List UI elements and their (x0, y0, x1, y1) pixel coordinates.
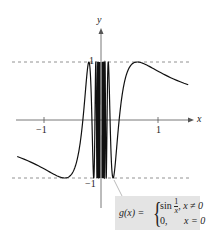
formula-sin: sin (160, 200, 172, 211)
y-axis-arrow-icon (99, 28, 104, 34)
x-axis-label: x (197, 113, 201, 124)
tick-label-x-neg1: −1 (36, 124, 47, 135)
formula-pointer (114, 180, 122, 196)
tick-label-y-pos1: 1 (89, 55, 94, 66)
formula-lhs: g(x) = (119, 207, 144, 218)
y-axis-label: y (97, 14, 101, 25)
x-axis-arrow-icon (188, 118, 194, 123)
tick-label-y-neg1: −1 (85, 178, 96, 189)
tick-label-x-pos1: 1 (156, 124, 161, 135)
formula-case-2: 0, x = 0 (160, 215, 205, 226)
formula-case-1-condition: , x ≠ 0 (178, 200, 203, 211)
function-definition-box: g(x) = { sin 1x, x ≠ 0 0, x = 0 (115, 196, 200, 230)
formula-case-1: sin 1x, x ≠ 0 (160, 198, 203, 215)
formula-case-2-value: 0, (160, 215, 168, 226)
formula-case-2-condition: x = 0 (184, 215, 205, 226)
